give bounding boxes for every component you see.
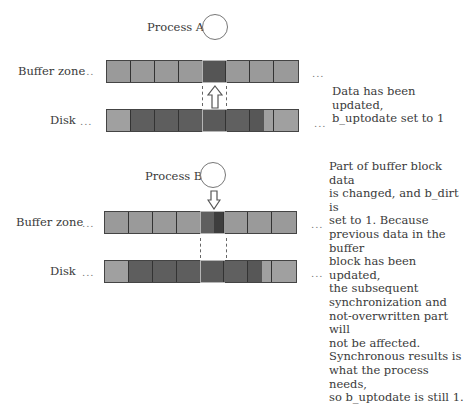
block-cell (272, 261, 296, 282)
block-cell (107, 110, 131, 131)
highlighted-block-cell (203, 61, 227, 82)
bottom-note-line: set to 1. Because (329, 214, 469, 228)
bottom-buffer-strip (104, 211, 297, 234)
block-cell (131, 61, 155, 82)
highlighted-block-cell (201, 261, 225, 282)
bottom-note-line: not-overwritten part will (329, 310, 469, 337)
top-disk-left-ellipsis: ... (80, 116, 93, 127)
bottom-disk-left-ellipsis: ... (82, 267, 95, 278)
bottom-note-line: the subsequent (329, 282, 469, 296)
bottom-note-line: so b_uptodate is still 1. (329, 391, 469, 405)
block-cell (155, 110, 179, 131)
bottom-disk-label: Disk (50, 264, 76, 278)
block-cell (272, 212, 296, 233)
bottom-note-line: Synchronous results is (329, 350, 469, 364)
process-a-circle (202, 14, 228, 40)
bottom-note-line: not be affected. (329, 337, 469, 351)
block-cell (224, 261, 248, 282)
top-disk-strip (106, 109, 299, 132)
block-cell (250, 61, 274, 82)
block-cell (177, 261, 201, 282)
block-cell (274, 61, 298, 82)
bottom-note-line: is changed, and b_dirt is (329, 187, 469, 214)
top-disk-label: Disk (50, 113, 76, 127)
top-note-line: Data has been updated, (332, 85, 469, 112)
top-dash-right (226, 86, 227, 106)
block-cell (131, 110, 155, 131)
down-arrow-icon (207, 190, 221, 210)
bottom-dash-right (226, 238, 227, 258)
bottom-note-line: synchronization and (329, 296, 469, 310)
bottom-buffer-left-ellipsis: ... (82, 218, 95, 229)
top-buffer-right-ellipsis: ... (312, 68, 325, 79)
top-buffer-left-ellipsis: ... (82, 66, 95, 77)
bottom-note-line: what the process needs, (329, 364, 469, 391)
block-cell (129, 212, 153, 233)
top-buffer-zone-label: Buffer zone (18, 64, 85, 78)
block-cell (179, 61, 203, 82)
block-cell (105, 261, 129, 282)
bottom-disk-right-ellipsis: ... (311, 268, 324, 279)
highlighted-block-cell (203, 110, 227, 131)
block-cell (153, 261, 177, 282)
block-cell (226, 110, 250, 131)
block-cell (248, 212, 272, 233)
block-cell (129, 261, 153, 282)
bottom-note-line: previous data in the buffer (329, 228, 469, 255)
bottom-disk-strip (104, 260, 297, 283)
bottom-buffer-right-ellipsis: ... (311, 219, 324, 230)
bottom-buffer-zone-label: Buffer zone (16, 215, 83, 229)
block-cell (107, 61, 131, 82)
top-dash-left (202, 86, 203, 106)
block-cell (250, 110, 274, 131)
highlighted-block-cell (201, 212, 225, 233)
block-cell (177, 212, 201, 233)
top-note-line: b_uptodate set to 1 (332, 112, 469, 126)
top-note: Data has been updated, b_uptodate set to… (332, 85, 469, 126)
block-cell (224, 212, 248, 233)
block-cell (226, 61, 250, 82)
top-buffer-strip (106, 60, 299, 83)
block-cell (153, 212, 177, 233)
top-disk-right-ellipsis: ... (314, 118, 327, 129)
process-b-circle (200, 162, 226, 188)
bottom-note: Part of buffer block data is changed, an… (329, 160, 469, 405)
process-b-label: Process B (145, 169, 202, 183)
bottom-note-line: block has been updated, (329, 255, 469, 282)
block-cell (155, 61, 179, 82)
process-a-label: Process A (147, 20, 204, 34)
block-cell (179, 110, 203, 131)
block-cell (105, 212, 129, 233)
block-cell (274, 110, 298, 131)
up-arrow-icon (207, 85, 223, 109)
bottom-note-line: Part of buffer block data (329, 160, 469, 187)
block-cell (248, 261, 272, 282)
bottom-dash-left (200, 238, 201, 258)
